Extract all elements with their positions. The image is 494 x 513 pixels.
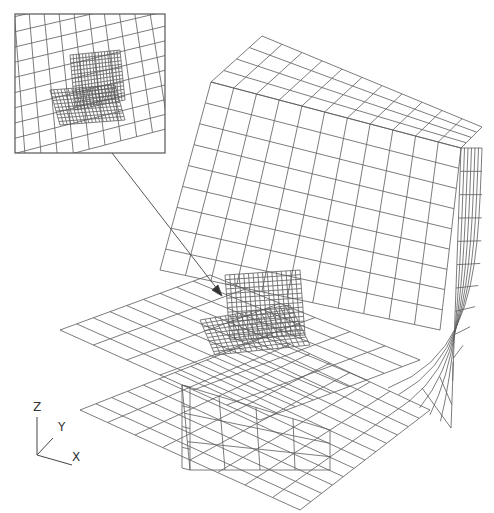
fe-mesh-diagram <box>0 0 494 513</box>
axes-triad <box>37 417 72 465</box>
axis-z-label: Z <box>33 400 41 414</box>
pointer-arrow <box>112 153 222 296</box>
inset-mesh <box>0 0 200 170</box>
axis-x-label: X <box>72 450 80 464</box>
main-mesh <box>60 36 482 510</box>
axis-y-label: Y <box>58 420 65 434</box>
